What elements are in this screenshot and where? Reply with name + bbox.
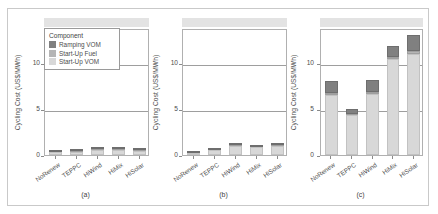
x-axis-labels: NoRenewTEPPCHiWindHiMixHiSolar xyxy=(294,156,427,188)
bar-segment-vom xyxy=(346,109,359,115)
x-tick-mark xyxy=(193,156,194,159)
legend-item: Ramping VOM xyxy=(49,41,115,48)
x-tick-mark xyxy=(277,156,278,159)
facet-strip xyxy=(44,18,149,27)
legend-item: Start-Up VOM xyxy=(49,58,115,65)
bar-segment-vom xyxy=(250,145,263,147)
x-tick-mark xyxy=(372,156,373,159)
bar-segment-vom xyxy=(407,35,420,51)
x-tick-mark xyxy=(139,156,140,159)
legend-item-label: Start-Up Fuel xyxy=(59,50,97,57)
y-tick-mark xyxy=(179,110,182,111)
legend-swatch-icon xyxy=(49,58,56,65)
bar-hiwind xyxy=(229,29,242,155)
bar-segment-sup xyxy=(366,94,379,155)
x-tick-mark xyxy=(76,156,77,159)
y-axis-label: Cycling Cost (US$/MWh) xyxy=(152,29,164,156)
bar-segment-vom xyxy=(70,149,83,151)
bar-segment-sup xyxy=(70,152,83,155)
legend-swatch-icon xyxy=(49,50,56,57)
y-tick-label: 10 xyxy=(298,60,314,67)
bar-segment-fuel xyxy=(325,93,338,95)
x-tick-mark xyxy=(392,156,393,159)
bar-segment-vom xyxy=(229,143,242,145)
y-tick-label: 5 xyxy=(298,106,314,113)
bar-segment-sup xyxy=(91,150,104,155)
x-tick-mark xyxy=(330,156,331,159)
chart-legend: ComponentRamping VOMStart-Up FuelStart-U… xyxy=(44,28,120,70)
bar-segment-vom xyxy=(271,143,284,145)
x-axis-labels: NoRenewTEPPCHiWindHiMixHiSolar xyxy=(18,156,153,188)
legend-item-label: Ramping VOM xyxy=(59,41,101,48)
facet-strip xyxy=(320,18,423,27)
x-tick-mark xyxy=(256,156,257,159)
x-tick-mark xyxy=(55,156,56,159)
plot-area xyxy=(182,29,287,156)
bar-segment-vom xyxy=(91,147,104,149)
bar-segment-sup xyxy=(229,146,242,155)
bar-segment-sup xyxy=(387,59,400,155)
bar-segment-vom xyxy=(325,81,338,93)
bar-segment-vom xyxy=(133,148,146,150)
x-tick-mark xyxy=(413,156,414,159)
y-axis-label: Cycling Cost (US$/MWh) xyxy=(290,29,302,156)
x-tick-mark xyxy=(235,156,236,159)
bar-segment-sup xyxy=(407,54,420,155)
panel-caption: (b) xyxy=(156,191,291,198)
bar-segment-vom xyxy=(187,151,200,153)
bar-segment-fuel xyxy=(407,51,420,54)
bar-segment-sup xyxy=(250,147,263,155)
y-tick-label: 5 xyxy=(24,106,40,113)
bar-segment-vom xyxy=(208,148,221,150)
chart-panel-c: Cycling Cost (US$/MWh)0510NoRenewTEPPCHi… xyxy=(294,18,427,198)
bar-segment-sup xyxy=(133,151,146,155)
bar-hiwind xyxy=(366,29,379,155)
bar-segment-sup xyxy=(208,150,221,155)
y-tick-label: 5 xyxy=(162,106,178,113)
bar-norenew xyxy=(325,29,338,155)
bar-segment-sup xyxy=(271,146,284,155)
y-tick-mark xyxy=(317,110,320,111)
y-tick-mark xyxy=(179,64,182,65)
bar-teppc xyxy=(346,29,359,155)
y-axis-label: Cycling Cost (US$/MWh) xyxy=(14,29,26,156)
bar-segment-fuel xyxy=(366,92,379,94)
legend-swatch-icon xyxy=(49,41,56,48)
y-tick-label: 10 xyxy=(162,60,178,67)
x-tick-mark xyxy=(97,156,98,159)
y-tick-mark xyxy=(41,110,44,111)
x-tick-mark xyxy=(351,156,352,159)
x-tick-mark xyxy=(118,156,119,159)
panel-caption: (c) xyxy=(294,191,427,198)
x-tick-mark xyxy=(214,156,215,159)
bar-segment-sup xyxy=(325,95,338,155)
bar-segment-sup xyxy=(112,150,125,155)
bar-segment-vom xyxy=(112,147,125,149)
chart-panel-b: Cycling Cost (US$/MWh)0510NoRenewTEPPCHi… xyxy=(156,18,291,198)
bar-himix xyxy=(387,29,400,155)
bar-hisolar xyxy=(133,29,146,155)
bar-teppc xyxy=(208,29,221,155)
legend-item: Start-Up Fuel xyxy=(49,50,115,57)
facet-strip xyxy=(182,18,287,27)
bar-segment-vom xyxy=(49,150,62,152)
plot-area xyxy=(320,29,423,156)
bar-segment-sup xyxy=(49,152,62,155)
bar-segment-sup xyxy=(346,115,359,155)
bar-segment-fuel xyxy=(387,57,400,60)
bar-himix xyxy=(250,29,263,155)
bar-hisolar xyxy=(407,29,420,155)
bar-segment-vom xyxy=(366,80,379,92)
bar-hisolar xyxy=(271,29,284,155)
legend-item-label: Start-Up VOM xyxy=(59,58,99,65)
x-axis-labels: NoRenewTEPPCHiWindHiMixHiSolar xyxy=(156,156,291,188)
y-tick-label: 10 xyxy=(24,60,40,67)
y-tick-mark xyxy=(317,64,320,65)
panel-caption: (a) xyxy=(18,191,153,198)
bar-norenew xyxy=(187,29,200,155)
figure-panel: Cycling Cost (US$/MWh)0510NoRenewTEPPCHi… xyxy=(7,8,429,206)
legend-title: Component xyxy=(49,32,115,39)
bar-segment-vom xyxy=(387,46,400,57)
